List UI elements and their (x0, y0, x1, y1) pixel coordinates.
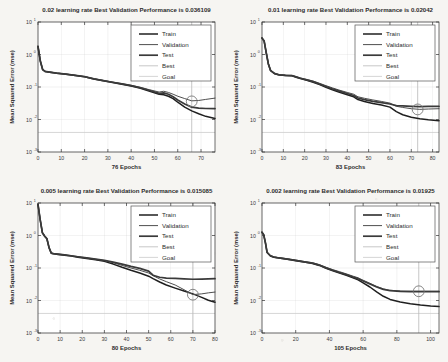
panel-1: 10110010-110-210-3010203040506070800.01 … (224, 0, 448, 181)
y-tick-exponent: -3 (34, 329, 37, 333)
legend-label-validation: Validation (386, 41, 413, 48)
y-tick-label: 10 (26, 265, 32, 271)
x-tick-label: 60 (175, 155, 181, 161)
panel-2: 10110010-110-210-3010203040506070800.005… (0, 181, 224, 362)
y-tick-exponent: 1 (258, 199, 260, 203)
y-axis-label: Mean Squared Error (mse) (9, 50, 15, 124)
legend-label-train: Train (386, 30, 400, 37)
legend-label-best: Best (386, 243, 399, 250)
y-tick-label: 10 (250, 19, 256, 25)
x-tick-label: 30 (105, 155, 111, 161)
y-tick-exponent: -2 (34, 115, 37, 119)
legend-label-test: Test (386, 51, 398, 58)
legend-label-best: Best (162, 243, 175, 250)
x-tick-label: 20 (293, 336, 299, 342)
x-tick-label: 100 (426, 336, 435, 342)
x-tick-label: 40 (344, 155, 350, 161)
y-tick-label: 10 (26, 330, 32, 336)
y-tick-label: 10 (26, 200, 32, 206)
legend-label-best: Best (386, 62, 399, 69)
panel-lr-0p02: 10110010-110-210-30102030405060700.02 le… (0, 0, 224, 181)
y-tick-label: 10 (250, 330, 256, 336)
x-tick-label: 0 (37, 336, 40, 342)
panel-0: 10110010-110-210-30102030405060700.02 le… (0, 0, 224, 181)
panel-lr-0p01: 10110010-110-210-3010203040506070800.01 … (224, 0, 448, 181)
x-tick-label: 40 (124, 336, 130, 342)
panel-3: 10110010-110-210-30204060801000.002 lear… (224, 181, 448, 362)
x-tick-label: 20 (79, 336, 85, 342)
y-tick-exponent: -1 (258, 264, 261, 268)
x-tick-label: 0 (261, 336, 264, 342)
y-tick-label: 10 (250, 298, 256, 304)
y-tick-label: 10 (250, 265, 256, 271)
x-tick-label: 80 (212, 336, 218, 342)
x-axis-label: 76 Epochs (112, 164, 142, 170)
y-tick-exponent: 1 (34, 199, 36, 203)
x-axis-label: 80 Epochs (112, 345, 142, 351)
x-axis-label: 105 Epochs (334, 345, 367, 351)
y-axis-label: Mean Squared Error (mse) (9, 231, 15, 305)
y-tick-exponent: -1 (34, 264, 37, 268)
y-tick-exponent: 0 (34, 50, 36, 54)
y-tick-exponent: -1 (34, 83, 37, 87)
y-tick-exponent: -3 (258, 148, 261, 152)
performance-plot-grid: 10110010-110-210-30102030405060700.02 le… (0, 0, 448, 362)
x-tick-label: 50 (152, 155, 158, 161)
legend-label-goal: Goal (386, 254, 399, 261)
x-tick-label: 0 (37, 155, 40, 161)
y-tick-exponent: -2 (258, 115, 261, 119)
x-tick-label: 10 (280, 155, 286, 161)
x-tick-label: 60 (387, 155, 393, 161)
panel-title: 0.01 learning rate Best Validation Perfo… (268, 6, 434, 13)
legend-label-validation: Validation (162, 222, 189, 229)
legend-label-test: Test (162, 51, 174, 58)
y-tick-exponent: -3 (258, 329, 261, 333)
legend-label-best: Best (162, 62, 175, 69)
x-tick-label: 40 (128, 155, 134, 161)
x-tick-label: 30 (101, 336, 107, 342)
x-tick-label: 60 (168, 336, 174, 342)
panel-lr-0p002: 10110010-110-210-30204060801000.002 lear… (224, 181, 448, 362)
x-tick-label: 40 (327, 336, 333, 342)
y-tick-label: 10 (250, 117, 256, 123)
x-tick-label: 70 (190, 336, 196, 342)
y-tick-label: 10 (250, 233, 256, 239)
legend-label-train: Train (162, 211, 176, 218)
x-tick-label: 0 (261, 155, 264, 161)
x-tick-label: 30 (323, 155, 329, 161)
x-tick-label: 80 (430, 155, 436, 161)
y-tick-exponent: 0 (258, 50, 260, 54)
y-tick-label: 10 (250, 84, 256, 90)
legend-label-validation: Validation (162, 41, 189, 48)
y-tick-label: 10 (26, 233, 32, 239)
y-tick-label: 10 (250, 52, 256, 58)
x-tick-label: 70 (408, 155, 414, 161)
x-tick-label: 50 (366, 155, 372, 161)
legend-label-goal: Goal (386, 73, 399, 80)
panel-title: 0.02 learning rate Best Validation Perfo… (42, 6, 211, 13)
panel-lr-0p005: 10110010-110-210-3010203040506070800.005… (0, 181, 224, 362)
y-tick-exponent: -3 (34, 148, 37, 152)
y-tick-exponent: 1 (258, 18, 260, 22)
y-axis-label: Mean Squared Error (mse) (233, 231, 239, 305)
y-tick-exponent: -2 (258, 296, 261, 300)
x-tick-label: 70 (198, 155, 204, 161)
y-tick-label: 10 (250, 200, 256, 206)
legend-label-goal: Goal (162, 73, 175, 80)
y-tick-label: 10 (26, 19, 32, 25)
legend-label-train: Train (386, 211, 400, 218)
y-tick-exponent: -1 (258, 83, 261, 87)
x-tick-label: 20 (302, 155, 308, 161)
y-tick-exponent: 0 (258, 231, 260, 235)
legend-label-test: Test (162, 232, 174, 239)
x-tick-label: 80 (394, 336, 400, 342)
y-axis-label: Mean Squared Error (mse) (233, 50, 239, 124)
legend-label-train: Train (162, 30, 176, 37)
y-tick-label: 10 (26, 84, 32, 90)
x-tick-label: 50 (146, 336, 152, 342)
x-axis-label: 83 Epochs (336, 164, 366, 170)
x-tick-label: 10 (58, 155, 64, 161)
y-tick-label: 10 (26, 52, 32, 58)
y-tick-exponent: 0 (34, 231, 36, 235)
x-tick-label: 60 (360, 336, 366, 342)
